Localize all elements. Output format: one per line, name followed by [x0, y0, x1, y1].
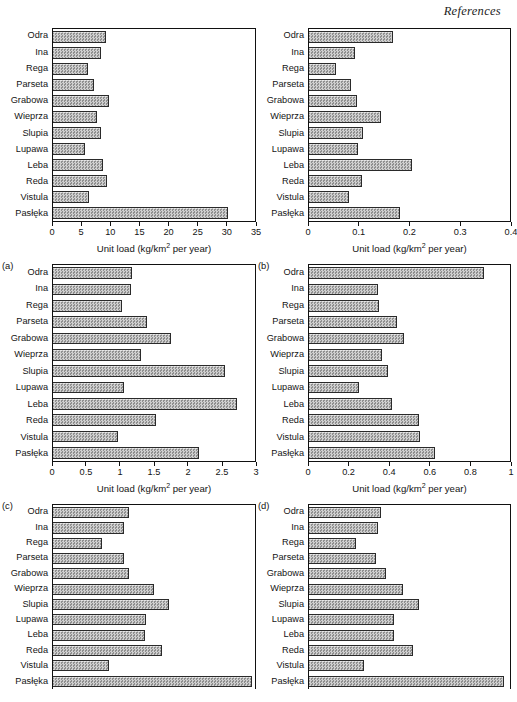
y-axis-labels: OdraInaRegaParsetaGrabowaWieprzaSlupiaLu…	[0, 504, 52, 689]
bar-chart-f: OdraInaRegaParsetaGrabowaWieprzaSlupiaLu…	[256, 504, 511, 689]
y-axis-labels: OdraInaRegaParsetaGrabowaWieprzaSlupiaLu…	[0, 28, 52, 222]
x-tick	[348, 462, 349, 466]
x-tick-label: 0.3	[454, 227, 467, 237]
y-tick-label: Grabowa	[2, 93, 52, 109]
bar-row	[309, 566, 510, 581]
bar-row	[309, 141, 510, 157]
bar	[309, 300, 379, 312]
bar-row	[309, 281, 510, 297]
y-tick-label: Grabowa	[2, 330, 52, 347]
x-axis: 00.511.522.53	[52, 462, 256, 482]
y-tick-label: Leba	[2, 627, 52, 642]
bar	[309, 159, 412, 171]
y-tick-label: Wieprza	[258, 109, 308, 125]
bar	[53, 191, 89, 203]
bar	[309, 175, 362, 187]
x-tick-label: 0.8	[464, 467, 477, 477]
bar-row	[309, 29, 510, 45]
bar	[53, 630, 145, 641]
axis-spacer	[256, 222, 308, 242]
bar-row	[309, 157, 510, 173]
bar-row	[309, 363, 510, 379]
bar	[309, 267, 484, 279]
bar-row	[53, 347, 255, 363]
chart-panel-d: OdraInaRegaParsetaGrabowaWieprzaSlupiaLu…	[256, 264, 511, 504]
bar	[309, 507, 381, 518]
bar-row	[53, 582, 255, 597]
y-tick-label: Odra	[258, 264, 308, 281]
chart-panel-c: OdraInaRegaParsetaGrabowaWieprzaSlupiaLu…	[0, 264, 256, 504]
chart-panel-a: OdraInaRegaParsetaGrabowaWieprzaSlupiaLu…	[0, 28, 256, 264]
bar-row	[309, 536, 510, 551]
x-tick-label: 5	[79, 227, 84, 237]
bar	[309, 143, 358, 155]
bar	[309, 599, 419, 610]
x-axis-title: Unit load (kg/km2 per year)	[256, 243, 511, 254]
y-tick-label: Slupia	[2, 125, 52, 141]
x-tick-label: 0.4	[505, 227, 517, 237]
x-tick-label: 0	[305, 227, 310, 237]
y-tick-label: Odra	[258, 504, 308, 519]
y-tick-label: Parseta	[2, 314, 52, 331]
x-tick-label: 0	[49, 467, 54, 477]
bar-row	[309, 658, 510, 673]
bar-row	[309, 445, 510, 461]
y-tick-label: Slupia	[258, 125, 308, 141]
bar-row	[53, 29, 255, 45]
x-tick	[222, 462, 223, 466]
x-tick-label: 0.6	[423, 467, 436, 477]
y-tick-label: Odra	[2, 28, 52, 44]
x-tick	[52, 222, 53, 226]
y-tick-label: Pasłęka	[258, 674, 308, 689]
y-tick-label: Slupia	[2, 363, 52, 380]
chart-panel-e: OdraInaRegaParsetaGrabowaWieprzaSlupiaLu…	[0, 504, 256, 702]
bar-row	[309, 379, 510, 395]
bar-row	[309, 109, 510, 125]
bar	[53, 365, 225, 377]
bar	[53, 300, 122, 312]
y-tick-label: Lupawa	[258, 141, 308, 157]
bar-row	[309, 173, 510, 189]
bar	[53, 414, 156, 426]
y-tick-label: Grabowa	[2, 566, 52, 581]
bar-row	[53, 141, 255, 157]
bar	[53, 284, 131, 296]
bar	[53, 79, 94, 91]
bar-row	[309, 330, 510, 346]
bar-row	[309, 582, 510, 597]
x-tick-label: 2	[185, 467, 190, 477]
bar	[53, 507, 129, 518]
bar	[53, 645, 162, 656]
x-tick	[119, 462, 120, 466]
x-tick	[308, 462, 309, 466]
bar-row	[309, 45, 510, 61]
x-tick	[197, 222, 198, 226]
bar-row	[53, 93, 255, 109]
y-tick-label: Rega	[258, 297, 308, 314]
bar-row	[53, 643, 255, 658]
y-tick-label: Ina	[258, 519, 308, 534]
x-tick	[389, 462, 390, 466]
bar-row	[53, 205, 255, 221]
y-tick-label: Ina	[258, 44, 308, 60]
plot-area	[52, 28, 256, 222]
bar-row	[309, 551, 510, 566]
x-tick-label: 0	[49, 227, 54, 237]
y-tick-label: Odra	[2, 504, 52, 519]
y-tick-label: Parseta	[2, 77, 52, 93]
bar	[53, 553, 124, 564]
y-axis-labels: OdraInaRegaParsetaGrabowaWieprzaSlupiaLu…	[256, 504, 308, 689]
y-tick-label: Grabowa	[258, 330, 308, 347]
y-axis-labels: OdraInaRegaParsetaGrabowaWieprzaSlupiaLu…	[256, 28, 308, 222]
bar-chart-e: OdraInaRegaParsetaGrabowaWieprzaSlupiaLu…	[0, 504, 256, 689]
x-tick	[470, 462, 471, 466]
bar-row	[53, 551, 255, 566]
y-tick-label: Leba	[2, 157, 52, 173]
x-axis-title: Unit load (kg/km2 per year)	[0, 243, 256, 254]
bar	[309, 630, 394, 641]
y-tick-label: Vistula	[2, 429, 52, 446]
x-tick	[52, 462, 53, 466]
bar-row	[309, 189, 510, 205]
bar-row	[309, 396, 510, 412]
bar-row	[53, 628, 255, 643]
